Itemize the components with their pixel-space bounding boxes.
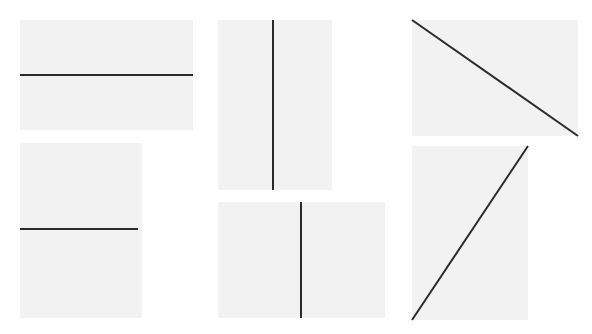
panel-top-right bbox=[412, 20, 578, 136]
panel-bottom-middle bbox=[218, 202, 385, 318]
panel-top-left-canvas bbox=[20, 20, 193, 130]
panel-top-middle bbox=[218, 20, 332, 190]
diagonal-line-segment bbox=[412, 20, 578, 136]
line-orientation-stage bbox=[0, 0, 592, 334]
panel-bottom-left-canvas bbox=[20, 143, 142, 318]
panel-top-right-canvas bbox=[412, 20, 578, 136]
panel-bottom-middle-canvas bbox=[218, 202, 385, 318]
panel-bottom-right bbox=[412, 146, 528, 320]
panel-top-middle-canvas bbox=[218, 20, 332, 190]
panel-top-left bbox=[20, 20, 193, 130]
panel-bottom-right-canvas bbox=[412, 146, 528, 320]
panel-bottom-left bbox=[20, 143, 142, 318]
diagonal-line-segment bbox=[412, 146, 528, 320]
